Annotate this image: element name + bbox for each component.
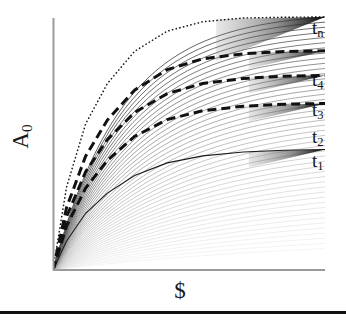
curve-label-subscript: 4 (317, 78, 323, 92)
bottom-divider-rule (0, 311, 346, 314)
convergence-wedges (216, 17, 325, 168)
curve-label-subscript: 1 (317, 159, 323, 173)
x-axis-label: $ (150, 278, 210, 304)
y-axis-label-base: A (8, 132, 33, 149)
curve-label-t_4: t4 (312, 70, 324, 91)
curve-label-t_n: tn (312, 18, 324, 39)
curve-label-subscript: n (317, 26, 323, 40)
fan-curve (53, 197, 325, 270)
curve-label-subscript: 3 (317, 108, 323, 122)
curve-label-t_3: t3 (312, 100, 324, 121)
fan-curve (53, 27, 325, 270)
curve-label-subscript: 2 (317, 135, 323, 149)
convergence-wedge (249, 51, 325, 69)
fan-curve (53, 218, 325, 270)
curve-label-t_2: t2 (312, 127, 324, 148)
fan-curve (53, 58, 325, 270)
y-axis-label-subscript: 0 (18, 124, 35, 132)
curve-label-t_1: t1 (312, 151, 324, 172)
fan-curve (53, 146, 325, 270)
chart-figure (0, 0, 346, 324)
y-axis-label: A0 (8, 107, 35, 167)
fan-curve (53, 187, 325, 270)
